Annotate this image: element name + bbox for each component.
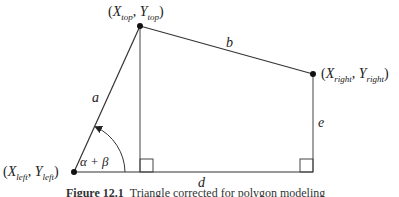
edge-b	[140, 26, 313, 74]
vertex-right	[310, 71, 316, 77]
vertex-top-label: (Xtop, Ytop)	[108, 5, 164, 19]
caption-text: Triangle corrected for polygon modeling	[130, 186, 326, 197]
figure-caption: Figure 12.1 Triangle corrected for polyg…	[66, 186, 325, 197]
vertex-right-label: (Xright, Yright)	[321, 67, 389, 81]
vertex-left-label: (Xleft, Yleft)	[3, 165, 59, 179]
caption-number: Figure 12.1	[66, 186, 124, 197]
right-angle-marker-right	[300, 159, 313, 172]
edge-a-label: a	[92, 91, 99, 105]
vertex-left	[71, 169, 77, 175]
edge-a	[74, 26, 140, 172]
diagram-canvas	[0, 0, 399, 197]
right-angle-marker-left	[140, 159, 153, 172]
vertex-top	[137, 23, 143, 29]
edge-b-label: b	[226, 36, 233, 50]
edge-e-label: e	[318, 116, 324, 130]
angle-label: α + β	[80, 155, 109, 168]
